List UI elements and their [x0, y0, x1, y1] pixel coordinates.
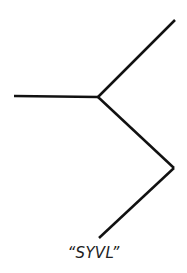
- structure-caption: “SYVL”: [0, 244, 187, 262]
- bond-bottom: [99, 168, 174, 238]
- bond-left: [14, 96, 98, 97]
- bond-upper-right: [98, 20, 175, 97]
- bond-lines: [14, 20, 175, 238]
- skeletal-structure-diagram: [0, 0, 187, 273]
- bond-lower-right: [98, 97, 174, 168]
